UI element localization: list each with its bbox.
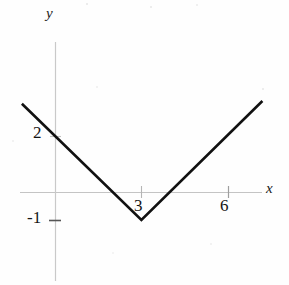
graph-figure: y x 2 -1 3 6: [0, 0, 289, 285]
y-axis-label: y: [46, 5, 53, 22]
plot-canvas: [0, 0, 289, 285]
y-tick-label-minus-1: -1: [27, 208, 41, 228]
y-tick-label-2: 2: [33, 123, 42, 143]
x-tick-label-6: 6: [220, 196, 229, 216]
x-tick-label-3: 3: [134, 196, 143, 216]
x-axis-label: x: [266, 180, 273, 197]
